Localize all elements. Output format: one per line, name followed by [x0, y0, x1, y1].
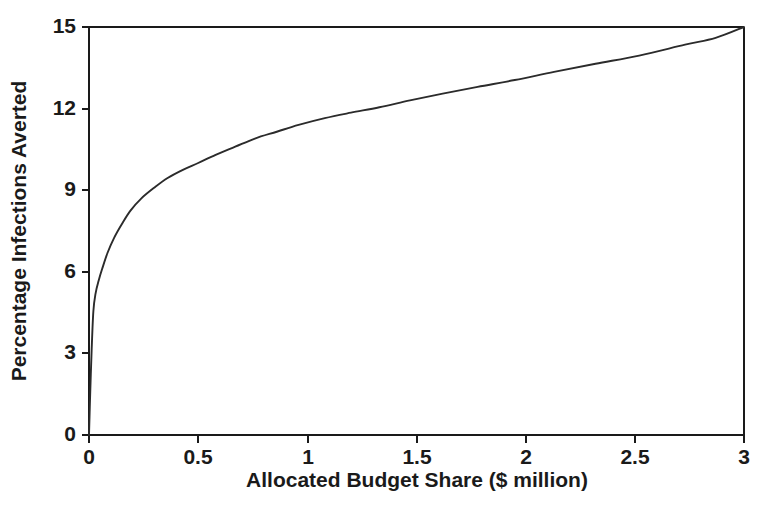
- x-tick-label-2: 2: [520, 445, 532, 468]
- x-tick-label-0: 0: [83, 445, 95, 468]
- chart-canvas: 0 3 6 9 12 15 0 0.5 1 1.5 2 2.5 3 Alloca…: [0, 0, 765, 507]
- y-tick-label-12: 12: [53, 96, 76, 119]
- y-axis-tick-labels: 0 3 6 9 12 15: [53, 14, 77, 445]
- x-tick-label-0.5: 0.5: [183, 445, 213, 468]
- y-tick-label-6: 6: [64, 259, 76, 282]
- y-tick-label-15: 15: [53, 14, 77, 37]
- data-curve-infections-averted: [89, 27, 744, 435]
- x-axis-title: Allocated Budget Share ($ million): [246, 468, 588, 491]
- y-tick-label-9: 9: [64, 177, 76, 200]
- x-tick-label-1.5: 1.5: [402, 445, 432, 468]
- chart-figure: 0 3 6 9 12 15 0 0.5 1 1.5 2 2.5 3 Alloca…: [0, 0, 765, 507]
- y-axis-title: Percentage Infections Averted: [7, 81, 30, 382]
- x-axis-ticks: [89, 435, 744, 443]
- x-tick-label-1: 1: [302, 445, 314, 468]
- y-axis-ticks: [82, 27, 89, 435]
- y-tick-label-3: 3: [64, 340, 76, 363]
- x-tick-label-2.5: 2.5: [620, 445, 650, 468]
- x-tick-label-3: 3: [738, 445, 750, 468]
- x-axis-tick-labels: 0 0.5 1 1.5 2 2.5 3: [83, 445, 750, 468]
- axis-spines: [89, 27, 744, 435]
- y-tick-label-0: 0: [64, 422, 76, 445]
